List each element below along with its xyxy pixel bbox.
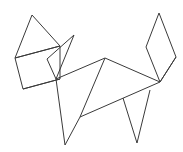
line-drawing-figure xyxy=(0,0,183,152)
fox-tangram-drawing xyxy=(0,0,183,152)
